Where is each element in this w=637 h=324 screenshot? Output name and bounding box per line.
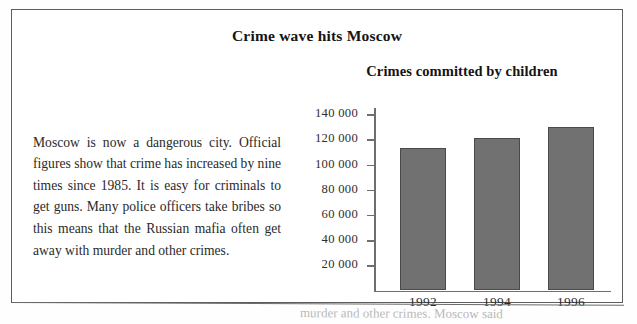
y-tick: 40 000 <box>367 240 375 242</box>
y-tick-label: 60 000 <box>322 207 358 222</box>
bleed-through-text: murder and other crimes. Moscow said <box>300 305 637 323</box>
y-tick-label: 80 000 <box>322 182 358 197</box>
bar: 1992 <box>400 148 446 291</box>
bar: 1994 <box>474 138 520 290</box>
article-body-text: Moscow is now a dangerous city. Official… <box>33 132 281 262</box>
y-tick: 80 000 <box>367 190 375 192</box>
x-axis-line <box>374 291 611 293</box>
y-tick: 100 000 <box>367 165 375 167</box>
y-tick-label: 120 000 <box>315 132 358 147</box>
y-tick-label: 20 000 <box>322 258 358 273</box>
scanned-page: Crime wave hits Moscow Crimes committed … <box>0 0 637 324</box>
page-headline: Crime wave hits Moscow <box>12 27 622 45</box>
figure-frame: Crime wave hits Moscow Crimes committed … <box>11 9 623 303</box>
y-tick-label: 40 000 <box>322 232 358 247</box>
chart-title: Crimes committed by children <box>312 63 612 80</box>
y-tick: 60 000 <box>367 215 375 217</box>
y-tick-label: 140 000 <box>315 107 358 122</box>
y-tick: 140 000 <box>367 114 375 116</box>
plot-area: 20 00040 00060 00080 000100 000120 00014… <box>374 98 614 292</box>
bar-chart: 20 00040 00060 00080 000100 000120 00014… <box>308 98 628 310</box>
y-tick: 120 000 <box>367 139 375 141</box>
y-tick-label: 100 000 <box>315 157 358 172</box>
y-tick: 20 000 <box>367 265 375 267</box>
bar: 1996 <box>548 127 594 291</box>
y-axis-line <box>374 108 376 291</box>
